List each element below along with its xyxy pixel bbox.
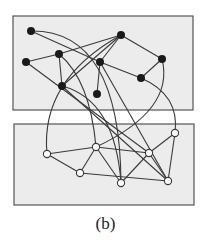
panel-group — [13, 16, 194, 205]
black-node-icon — [27, 27, 35, 35]
white-node-icon — [43, 150, 50, 157]
black-node-icon — [137, 74, 145, 82]
black-node-icon — [22, 58, 30, 66]
panel-bottom — [14, 124, 194, 205]
black-node-icon — [96, 58, 104, 66]
black-node-icon — [158, 55, 166, 63]
white-node-icon — [171, 129, 178, 136]
figure-caption: (b) — [0, 214, 211, 234]
graph-diagram — [0, 0, 211, 247]
white-node-icon — [117, 179, 124, 186]
black-node-icon — [117, 31, 125, 39]
white-node-icon — [145, 149, 152, 156]
black-node-icon — [55, 50, 63, 58]
white-node-icon — [76, 169, 83, 176]
black-node-icon — [58, 82, 66, 90]
black-node-icon — [93, 90, 101, 98]
white-node-icon — [92, 143, 99, 150]
white-node-icon — [164, 177, 171, 184]
